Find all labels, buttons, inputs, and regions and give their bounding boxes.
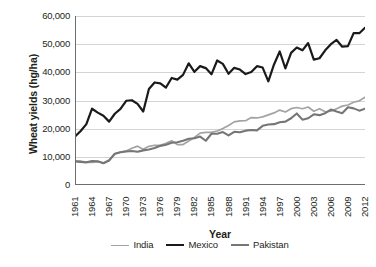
y-axis-tick-label: 50,000	[24, 39, 70, 49]
y-axis-tick-label: 0	[24, 180, 70, 190]
x-axis-tick-label: 2006	[326, 173, 336, 217]
x-axis-tick-label: 1982	[189, 173, 199, 217]
x-axis-tick-label: 1973	[138, 173, 148, 217]
legend-item-india[interactable]: India	[111, 240, 153, 250]
y-axis-tick-label: 40,000	[24, 67, 70, 77]
y-axis-tick-label: 20,000	[24, 124, 70, 134]
x-axis-tick-label: 2012	[360, 173, 370, 217]
y-axis-tick-label: 10,000	[24, 152, 70, 162]
x-axis-tick-label: 2003	[309, 173, 319, 217]
x-axis-tick-label: 1988	[224, 173, 234, 217]
x-axis-tick-label: 1961	[70, 173, 80, 217]
x-axis-title: Year	[75, 228, 365, 240]
series-lines	[75, 28, 365, 163]
chart-plot-svg	[75, 16, 365, 185]
legend-label-pakistan: Pakistan	[253, 240, 289, 250]
y-axis-tick-label: 30,000	[24, 96, 70, 106]
legend-swatch-pakistan	[231, 244, 249, 246]
x-axis-tick-label: 2000	[292, 173, 302, 217]
gridlines	[75, 17, 365, 158]
x-axis-tick-label: 1964	[87, 173, 97, 217]
x-axis-tick-label: 1994	[258, 173, 268, 217]
x-axis-tick-label: 1997	[275, 173, 285, 217]
x-axis-tick-marks	[75, 17, 365, 186]
x-axis-tick-label: 1985	[206, 173, 216, 217]
legend-label-india: India	[133, 240, 153, 250]
x-axis-tick-label: 1991	[241, 173, 251, 217]
plot-area	[75, 16, 365, 185]
x-axis-tick-label: 1967	[104, 173, 114, 217]
legend-item-pakistan[interactable]: Pakistan	[231, 240, 289, 250]
legend-label-mexico: Mexico	[188, 240, 218, 250]
legend-swatch-india	[111, 245, 129, 246]
legend-swatch-mexico	[166, 244, 184, 246]
x-axis-tick-label: 1979	[172, 173, 182, 217]
clipped-caption-text	[30, 259, 33, 262]
clipped-caption-strip	[0, 259, 376, 267]
x-axis-tick-label: 2009	[343, 173, 353, 217]
x-axis-tick-label: 1970	[121, 173, 131, 217]
series-line-pakistan	[75, 107, 365, 163]
y-axis-tick-label: 60,000	[24, 11, 70, 21]
legend-item-mexico[interactable]: Mexico	[166, 240, 218, 250]
chart-legend: IndiaMexicoPakistan	[60, 240, 340, 250]
x-axis-tick-label: 1976	[155, 173, 165, 217]
y-axis-tick-labels: 60,00050,00040,00030,00020,00010,0000	[22, 0, 70, 267]
wheat-yields-line-chart: Wheat yields (hg/ha) 60,00050,00040,0003…	[0, 0, 376, 267]
